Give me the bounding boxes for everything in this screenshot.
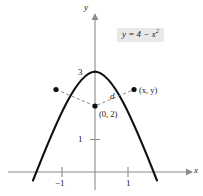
equation-exponent: 2 [156, 27, 159, 34]
marker-left-curve-point [53, 87, 58, 92]
y-axis-label: y [84, 3, 88, 12]
distance-label-d: d [110, 92, 115, 101]
equation-text: y = 4 − x [122, 29, 156, 39]
parabola-plot [0, 0, 203, 196]
y-tick-label-1: 1 [78, 135, 83, 144]
x-axis-label: x [194, 166, 198, 175]
y-axis-arrowhead [92, 13, 99, 20]
x-tick-label-neg1: −1 [55, 179, 65, 188]
x-axis-arrowhead [186, 169, 193, 176]
center-point-label: (0, 2) [99, 110, 117, 119]
right-point-label: (x, y) [139, 86, 157, 95]
equation-label: y = 4 − x2 [117, 28, 164, 42]
marker-center-point [92, 103, 97, 108]
x-tick-label-1: 1 [126, 179, 131, 188]
y-tick-label-3: 3 [78, 68, 83, 77]
marker-right-curve-point [131, 87, 136, 92]
graph-figure: y x 3 1 −1 1 d (0, 2) (x, y) y = 4 − x2 [0, 0, 203, 196]
